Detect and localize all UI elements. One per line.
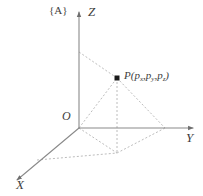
- coord-x: px: [134, 69, 143, 81]
- point-name: P: [124, 69, 131, 81]
- dashed-line-x-foot-to-floor: [37, 153, 117, 160]
- y-axis-label: Y: [186, 131, 193, 144]
- coordinate-axes-drawing: [0, 0, 203, 196]
- coordinate-frame-figure: {A} Z Y X O P(px,py,pz): [0, 0, 203, 196]
- origin-label: O: [62, 110, 71, 122]
- point-p-marker: [115, 76, 120, 81]
- close-paren: ): [165, 69, 169, 81]
- frame-label: {A}: [49, 5, 68, 16]
- dashed-line-z-to-point: [79, 52, 117, 78]
- point-p-label: P(px,py,pz): [124, 70, 169, 81]
- dashed-line-floor-to-y-foot: [117, 128, 165, 153]
- x-axis-label: X: [16, 178, 24, 191]
- x-axis-line: [17, 128, 79, 180]
- dashed-line-point-to-y-foot: [117, 78, 165, 128]
- dashed-line-origin-to-floor: [79, 128, 117, 153]
- dashed-line-origin-to-point: [79, 78, 117, 128]
- z-axis-label: Z: [88, 5, 95, 18]
